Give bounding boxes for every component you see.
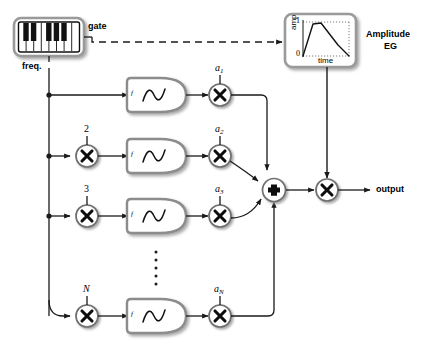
amp-multiplier-3[interactable] [209,205,231,227]
gate-connection [84,37,282,42]
osc-2-freq-input-label: f [131,151,133,158]
row-n-to-sum [231,202,274,316]
eg-ytick-top: 1 [296,17,300,25]
amp-2-subscript: 2 [220,128,224,136]
amp-1-subscript: 1 [220,67,224,75]
row-3-to-sum [231,199,261,218]
diagram-canvas: gate freq. output Amplitude EG amp time … [0,0,426,356]
oscillator-3[interactable] [127,199,186,233]
freq-label: freq. [22,62,42,71]
harmonic-multiplier-n[interactable] [76,305,98,327]
row-2-to-sum [230,161,258,181]
amp-1-label: a1 [215,63,224,75]
osc-n-freq-input-label: f [131,311,133,318]
eg-ytick-bottom: 0 [296,50,300,58]
diagram-svg [0,0,426,356]
harmonic-multiplier-2[interactable] [76,145,98,167]
oscillator-n[interactable] [127,299,186,333]
amp-3-label: a3 [215,184,224,196]
harmonic-2-label: 2 [84,124,89,134]
amplitude-eg-label-line1: Amplitude [366,30,410,39]
ellipsis-dots [155,251,158,286]
amp-n-label: aN [214,284,224,296]
eg-xlabel: time [318,57,333,65]
amp-multiplier-1[interactable] [209,84,231,106]
amp-multiplier-2[interactable] [209,145,231,167]
harmonic-multiplier-3[interactable] [76,205,98,227]
oscillator-2[interactable] [127,139,186,173]
harmonic-3-label: 3 [84,184,89,194]
amp-n-subscript: N [219,288,224,296]
amplitude-eg-label-line2: EG [384,42,397,51]
output-vca[interactable] [316,179,338,201]
amp-2-label: a2 [215,124,224,136]
osc-1-freq-input-label: f [131,90,133,97]
osc-3-freq-input-label: f [131,211,133,218]
harmonic-n-label: N [83,284,90,294]
amp-multiplier-n[interactable] [209,305,231,327]
output-label: output [376,185,404,194]
gate-label: gate [88,22,107,31]
summation-node[interactable] [263,179,286,202]
oscillator-1[interactable] [127,78,186,112]
amp-3-subscript: 3 [220,188,224,196]
row-1-to-sum [231,95,267,170]
